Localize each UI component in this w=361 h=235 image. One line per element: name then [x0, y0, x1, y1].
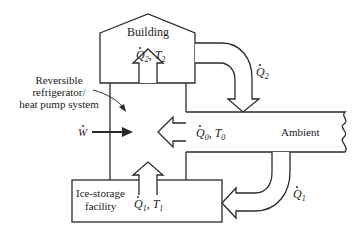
work-label: W: [78, 125, 88, 138]
svg-text:Q1, T1: Q1, T1: [134, 197, 163, 213]
q0-left-arrow: [158, 117, 186, 147]
system-label-line-2: refrigerator/: [32, 86, 86, 98]
ambient-flow-label: Q0, T0: [196, 125, 225, 142]
q1-curved-arrow: [222, 152, 290, 218]
building-label: Building: [127, 25, 169, 39]
q2-curved-arrow: [195, 43, 259, 112]
q1-arrow-label: Q1: [293, 186, 306, 203]
ambient-label: Ambient: [281, 126, 320, 138]
system-label-line-3: heat pump system: [19, 98, 99, 110]
pointer-arrowhead-icon: [119, 104, 126, 112]
building-flow-label: Q2, T2: [136, 47, 165, 64]
ice-storage-flow-label: Q1, T1: [134, 196, 163, 213]
svg-text:W: W: [78, 126, 88, 138]
svg-text:Q2, T2: Q2, T2: [136, 48, 165, 64]
svg-text:Q0, T0: Q0, T0: [196, 126, 225, 142]
ice-storage-label-line-2: facility: [85, 200, 117, 212]
svg-text:Q2: Q2: [256, 65, 269, 81]
heat-pump-diagram: Building Q2, T2 Reversible refrigerator/…: [0, 0, 361, 235]
ice-storage-label-line-1: Ice-storage: [76, 187, 125, 199]
svg-text:Q1: Q1: [293, 187, 306, 203]
system-label-line-1: Reversible: [35, 74, 82, 86]
q2-arrow-label: Q2: [256, 64, 269, 81]
work-arrowhead-icon: [122, 127, 133, 137]
